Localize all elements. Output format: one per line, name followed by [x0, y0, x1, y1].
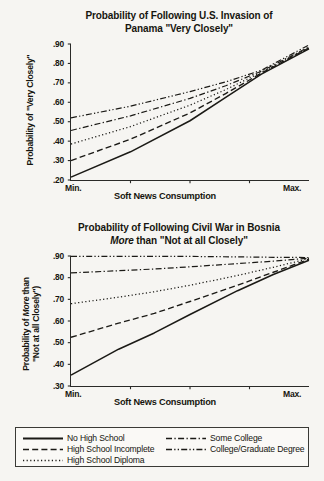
series-line — [71, 45, 309, 118]
chart-title-bosnia-emphasis: More — [110, 235, 134, 246]
series-line — [71, 48, 309, 144]
series-line — [71, 259, 309, 304]
y-tick-label: .30 — [26, 381, 64, 391]
legend-item: High School Incomplete — [21, 443, 154, 454]
y-tick-label: .50 — [26, 116, 64, 126]
y-tick-label: .60 — [26, 316, 64, 326]
legend-line-swatch — [21, 455, 65, 465]
series-line — [71, 260, 309, 375]
chart-title-bosnia-line1: Probability of Following Civil War in Bo… — [78, 222, 280, 233]
y-tick-label: .20 — [26, 175, 64, 185]
y-tick-label: .90 — [26, 251, 64, 261]
legend-line-swatch — [21, 433, 65, 443]
x-axis-max-label-bosnia: Max. — [283, 389, 301, 399]
x-axis-min-label-panama: Min. — [65, 183, 81, 193]
y-tick-label: .40 — [26, 136, 64, 146]
legend-line-swatch — [164, 444, 208, 454]
legend-item-label: High School Diploma — [65, 455, 144, 465]
legend-item-label: Some College — [208, 433, 262, 443]
plot-area-panama — [70, 44, 309, 181]
series-line — [71, 256, 309, 257]
y-tick-label: .70 — [26, 294, 64, 304]
figure-page: Probability of Following U.S. Invasion o… — [0, 0, 324, 481]
legend-line-swatch — [21, 444, 65, 454]
series-line — [71, 49, 309, 177]
legend-item-label: College/Graduate Degree — [208, 444, 305, 454]
legend-item: No High School — [21, 432, 154, 443]
legend-item-label: No High School — [65, 433, 125, 443]
chart-title-panama: Probability of Following U.S. Invasion o… — [40, 10, 318, 35]
y-tick-label: .80 — [26, 272, 64, 282]
series-line — [71, 258, 309, 273]
y-tick-label: .70 — [26, 77, 64, 87]
x-axis-min-label-bosnia: Min. — [65, 389, 81, 399]
x-axis-max-label-panama: Max. — [283, 183, 301, 193]
legend-column-right: Some CollegeCollege/Graduate Degree — [164, 432, 305, 454]
y-tick-label: .30 — [26, 155, 64, 165]
series-line — [71, 48, 309, 161]
plot-area-bosnia — [70, 256, 309, 387]
y-tick-label: .50 — [26, 337, 64, 347]
x-axis-title-panama: Soft News Consumption — [114, 191, 216, 201]
legend-item: High School Diploma — [21, 454, 154, 465]
legend: No High SchoolHigh School IncompleteHigh… — [15, 427, 309, 467]
legend-column-left: No High SchoolHigh School IncompleteHigh… — [21, 432, 154, 465]
series-line — [71, 47, 309, 131]
y-tick-label: .60 — [26, 97, 64, 107]
chart-panel-bosnia: Probability of Following Civil War in Bo… — [0, 212, 324, 416]
x-axis-title-bosnia: Soft News Consumption — [114, 397, 216, 407]
chart-title-bosnia: Probability of Following Civil War in Bo… — [40, 222, 318, 247]
legend-line-swatch — [164, 433, 208, 443]
y-tick-label: .80 — [26, 58, 64, 68]
y-tick-label: .90 — [26, 39, 64, 49]
legend-item-label: High School Incomplete — [65, 444, 154, 454]
chart-title-bosnia-line2-rest: than "Not at all Closely" — [134, 235, 248, 246]
chart-title-panama-line2: Panama "Very Closely" — [125, 23, 233, 34]
chart-title-panama-line1: Probability of Following U.S. Invasion o… — [85, 10, 272, 21]
legend-item: Some College — [164, 432, 305, 443]
chart-panel-panama: Probability of Following U.S. Invasion o… — [0, 0, 324, 212]
y-tick-label: .40 — [26, 359, 64, 369]
legend-item: College/Graduate Degree — [164, 443, 305, 454]
